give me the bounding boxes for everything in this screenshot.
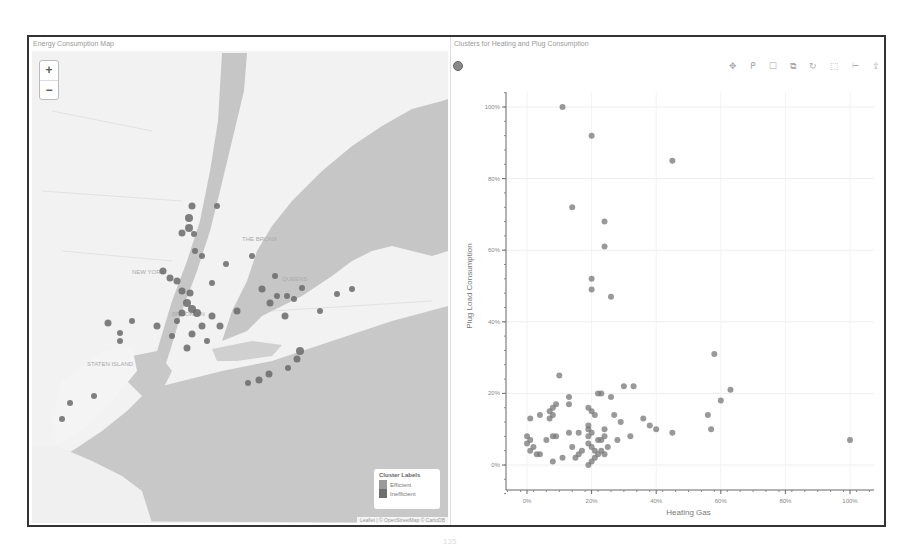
svg-text:100%: 100% <box>842 498 858 504</box>
zoom-control: + − <box>39 60 59 100</box>
svg-text:20%: 20% <box>488 390 501 396</box>
energy-map[interactable]: NEW YORK THE BRONX STATEN ISLAND BROOKLY… <box>32 51 448 523</box>
svg-text:Heating Gas: Heating Gas <box>666 508 710 517</box>
map-label-queens: QUEENS <box>282 276 307 282</box>
map-label-staten-island: STATEN ISLAND <box>87 361 134 367</box>
legend-label-efficient: Efficient <box>390 482 411 488</box>
map-tiles: NEW YORK THE BRONX STATEN ISLAND BROOKLY… <box>32 51 448 523</box>
cluster-legend: Cluster Labels Efficient Inefficient <box>374 469 440 509</box>
page-number: 135 <box>443 537 456 546</box>
svg-text:20%: 20% <box>586 498 599 504</box>
map-label-bronx: THE BRONX <box>242 236 277 242</box>
svg-text:100%: 100% <box>485 104 501 110</box>
legend-item-inefficient: Inefficient <box>379 489 435 498</box>
map-panel: Energy Consumption Map NE <box>29 37 451 525</box>
svg-text:0%: 0% <box>523 498 532 504</box>
legend-item-efficient: Efficient <box>379 480 435 489</box>
chart-panel: Clusters for Heating and Plug Consumptio… <box>450 37 884 525</box>
zoom-out-button[interactable]: − <box>40 81 58 100</box>
legend-swatch-inefficient <box>379 489 387 498</box>
map-title: Energy Consumption Map <box>33 40 114 47</box>
svg-text:Plug Load Consumption: Plug Load Consumption <box>465 243 474 328</box>
svg-text:0%: 0% <box>491 462 500 468</box>
svg-text:40%: 40% <box>488 319 501 325</box>
map-attribution[interactable]: Leaflet | © OpenStreetMap © CartoDB <box>357 517 448 523</box>
svg-text:40%: 40% <box>650 498 663 504</box>
svg-text:60%: 60% <box>488 247 501 253</box>
scatter-plot[interactable]: 0%20%40%60%80%100%0%20%40%60%80%100%Heat… <box>450 37 884 525</box>
legend-label-inefficient: Inefficient <box>390 491 416 497</box>
legend-title: Cluster Labels <box>379 472 435 478</box>
svg-text:80%: 80% <box>488 176 501 182</box>
zoom-in-button[interactable]: + <box>40 61 58 81</box>
svg-text:80%: 80% <box>779 498 792 504</box>
dashboard-frame: Energy Consumption Map NE <box>27 35 886 527</box>
legend-swatch-efficient <box>379 480 387 489</box>
svg-text:60%: 60% <box>715 498 728 504</box>
